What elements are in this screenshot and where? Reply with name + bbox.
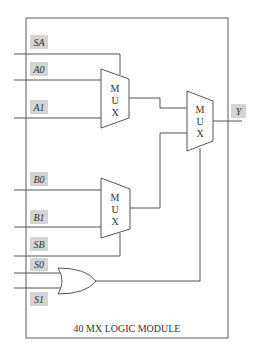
label-s0: S0 [30,258,48,271]
label-sa: SA [30,35,48,49]
label-s1: S1 [30,292,48,306]
label-a1: A1 [30,100,48,114]
mux-b-letter-x: X [111,216,119,227]
mux-a-letter-u: U [111,95,119,106]
label-a0: A0 [30,62,48,76]
mux-a: M U X [101,69,129,128]
mux-b-letter-u: U [111,204,119,215]
wire-mux-b-out [130,133,187,208]
label-s0-text: S0 [34,259,44,270]
mux-a-letter-m: M [111,83,120,94]
mux-b: M U X [101,178,130,238]
mux-a-letter-x: X [111,107,119,118]
mux-out-letter-u: U [196,116,204,127]
label-sb-text: SB [33,239,44,250]
mux-out-letter-m: M [196,104,205,115]
or-gate [58,268,96,294]
mux-out-letter-x: X [196,128,204,139]
mux-out: M U X [187,91,213,151]
label-s1-text: S1 [34,294,44,305]
logic-module-diagram: M U X M U X M U X SA A0 A1 B0 B1 SB [0,0,256,355]
label-b1: B1 [30,210,48,224]
label-a1-text: A1 [32,102,44,113]
label-a0-text: A0 [32,64,44,75]
label-b0-text: B0 [33,174,44,185]
label-sa-text: SA [33,37,45,48]
mux-b-letter-m: M [111,192,120,203]
module-frame [26,18,228,338]
label-b0: B0 [30,172,48,186]
label-b1-text: B1 [33,212,44,223]
wire-mux-a-out [129,98,187,108]
module-caption: 40 MX LOGIC MODULE [74,323,181,334]
label-sb: SB [30,237,48,251]
label-y: Y [231,104,246,118]
